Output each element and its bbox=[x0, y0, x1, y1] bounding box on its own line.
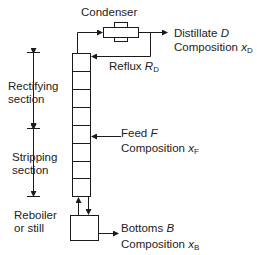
feed-composition: Composition xF bbox=[121, 141, 199, 159]
bottoms-label: Bottoms B bbox=[121, 221, 174, 235]
stripping-label-2: section bbox=[12, 163, 48, 177]
rectifying-label-1: Rectifying bbox=[8, 79, 59, 93]
condenser-label: Condenser bbox=[81, 5, 137, 19]
reboiler bbox=[71, 216, 99, 241]
stripping-label-1: Stripping bbox=[12, 150, 57, 164]
condenser bbox=[104, 28, 139, 38]
vapor-line bbox=[78, 33, 103, 54]
reboiler-label-1: Reboiler bbox=[14, 208, 57, 222]
rectifying-label-2: section bbox=[8, 92, 44, 106]
distillate-label: Distillate D bbox=[174, 26, 229, 40]
distillate-composition: Composition xD bbox=[174, 40, 253, 58]
reflux-label: Reflux RD bbox=[109, 59, 159, 77]
bottoms-composition: Composition xB bbox=[121, 237, 199, 255]
feed-label: Feed F bbox=[121, 126, 157, 140]
reboiler-label-2: or still bbox=[14, 221, 44, 235]
